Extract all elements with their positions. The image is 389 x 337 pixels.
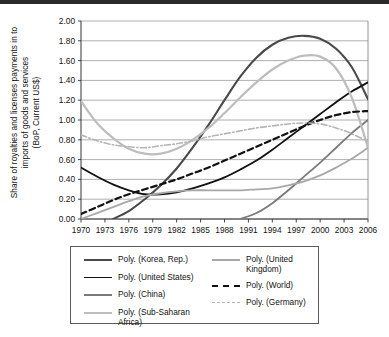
x-tick-label: 1988 <box>215 225 234 235</box>
y-tick-label: 1.60 <box>59 56 76 66</box>
legend-label: Poly. (Sub-Saharan Africa) <box>118 307 210 327</box>
x-tick-label: 1970 <box>72 225 91 235</box>
y-tick-label: 1.80 <box>59 36 76 46</box>
legend-label: Poly. (Germany) <box>246 297 306 307</box>
y-tick-label: 1.00 <box>59 115 76 125</box>
x-tick-label: 1979 <box>144 225 163 235</box>
x-tick-label: 1973 <box>96 225 115 235</box>
legend-label: Poly. (China) <box>118 289 165 299</box>
x-tick-label: 2003 <box>335 225 354 235</box>
legend-item[interactable]: Poly. (Korea, Rep.) <box>84 254 210 266</box>
legend-swatch-icon <box>84 308 112 319</box>
x-tick-label: 2000 <box>311 225 330 235</box>
series-line-6 <box>81 123 368 148</box>
x-tick-label: 1991 <box>239 225 258 235</box>
legend-swatch-icon <box>84 255 112 266</box>
y-tick-label: 0.80 <box>59 135 76 145</box>
y-tick-label: 0.40 <box>59 174 76 184</box>
x-tick-label: 2006 <box>359 225 378 235</box>
plot-area: 0.000.200.400.600.801.001.201.401.601.80… <box>0 0 389 245</box>
legend-label: Poly. (Korea, Rep.) <box>118 254 188 264</box>
legend-label: Poly. (United States) <box>118 272 193 282</box>
legend-item[interactable]: Poly. (China) <box>84 289 210 301</box>
legend-item[interactable]: Poly. (United States) <box>84 272 210 284</box>
x-tick-label: 1976 <box>120 225 139 235</box>
legend-item[interactable]: Poly. (United Kingdom) <box>212 254 318 274</box>
chart-figure: Share of royalties and licenses payments… <box>0 0 389 337</box>
chart-legend: Poly. (Korea, Rep.)Poly. (United States)… <box>70 246 319 324</box>
legend-swatch-icon <box>212 255 240 266</box>
legend-swatch-icon <box>84 273 112 284</box>
legend-column-right: Poly. (United Kingdom)Poly. (World)Poly.… <box>210 254 318 323</box>
legend-item[interactable]: Poly. (Germany) <box>212 297 318 309</box>
x-tick-label: 1985 <box>191 225 210 235</box>
legend-column-left: Poly. (Korea, Rep.)Poly. (United States)… <box>71 254 210 323</box>
legend-swatch-icon <box>84 290 112 301</box>
y-tick-label: 0.20 <box>59 194 76 204</box>
legend-swatch-icon <box>212 281 240 292</box>
series-line-3 <box>81 55 368 154</box>
x-tick-label: 1997 <box>287 225 306 235</box>
y-tick-label: 1.40 <box>59 75 76 85</box>
legend-item[interactable]: Poly. (World) <box>212 280 318 292</box>
y-tick-label: 0.60 <box>59 155 76 165</box>
y-tick-label: 1.20 <box>59 95 76 105</box>
legend-label: Poly. (United Kingdom) <box>246 254 318 274</box>
series-line-5 <box>81 111 368 214</box>
y-tick-label: 0.00 <box>59 214 76 224</box>
y-tick-label: 2.00 <box>59 16 76 26</box>
series-group <box>81 36 368 219</box>
series-line-2 <box>240 120 368 219</box>
x-tick-label: 1994 <box>263 225 282 235</box>
legend-label: Poly. (World) <box>246 280 293 290</box>
x-tick-label: 1982 <box>167 225 186 235</box>
legend-swatch-icon <box>212 298 240 309</box>
legend-item[interactable]: Poly. (Sub-Saharan Africa) <box>84 307 210 327</box>
